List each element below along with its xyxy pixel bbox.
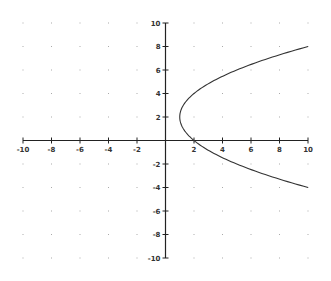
y-tick-label: 8 xyxy=(156,43,161,51)
parabola-curve xyxy=(180,47,308,188)
y-tick-label: 10 xyxy=(151,20,161,28)
x-tick-label: 2 xyxy=(192,146,197,154)
y-tick-label: -6 xyxy=(153,208,161,216)
y-tick-label: -8 xyxy=(153,231,161,239)
y-tick-label: -10 xyxy=(148,255,161,263)
axes xyxy=(23,23,308,258)
x-tick-label: 10 xyxy=(303,146,313,154)
x-tick-label: 8 xyxy=(277,146,282,154)
x-tick-label: -4 xyxy=(105,146,113,154)
y-tick-label: -4 xyxy=(153,184,161,192)
x-tick-label: -8 xyxy=(48,146,56,154)
x-tick-label: 4 xyxy=(220,146,225,154)
y-tick-label: 4 xyxy=(156,90,161,98)
x-tick-label: 6 xyxy=(249,146,254,154)
parabola-chart: -10-8-6-4-2246810108642-2-4-6-8-10 xyxy=(0,0,331,281)
x-tick-label: -10 xyxy=(17,146,30,154)
x-tick-label: -6 xyxy=(76,146,84,154)
y-tick-label: 6 xyxy=(156,67,161,75)
x-tick-label: -2 xyxy=(133,146,141,154)
y-tick-label: -2 xyxy=(153,161,161,169)
y-tick-label: 2 xyxy=(156,114,161,122)
